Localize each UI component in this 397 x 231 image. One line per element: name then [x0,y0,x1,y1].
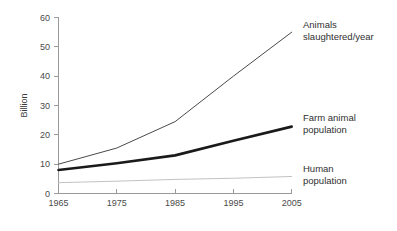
x-axis-ticks [59,189,292,194]
annotation-farm-animal-line2: population [303,124,347,135]
series-annotations: Animals slaughtered/year Farm animal pop… [303,19,374,186]
y-tick-label-60: 60 [40,13,50,23]
annotation-human-population-line2: population [303,175,347,186]
series-line-farm-animal-population [59,127,292,170]
y-tick-label-50: 50 [40,42,50,52]
y-tick-label-30: 30 [40,101,50,111]
x-tick-label-2005: 2005 [282,198,302,208]
series-line-human-population [59,176,292,182]
x-tick-label-1985: 1985 [165,198,185,208]
line-chart: 60 50 40 30 20 10 0 1965 1975 1985 1995 … [0,0,397,231]
annotation-human-population-line1: Human [303,163,334,174]
x-tick-label-1995: 1995 [223,198,243,208]
annotation-animals-slaughtered-line1: Animals [303,19,337,30]
x-axis-tick-labels: 1965 1975 1985 1995 2005 [48,198,301,208]
chart-container: 60 50 40 30 20 10 0 1965 1975 1985 1995 … [0,0,397,231]
annotation-animals-slaughtered-line2: slaughtered/year [303,31,374,42]
y-axis-ticks [54,18,59,194]
y-axis-title: Billion [19,93,29,117]
x-tick-label-1975: 1975 [107,198,127,208]
y-tick-label-0: 0 [45,189,50,199]
annotation-farm-animal-line1: Farm animal [303,112,356,123]
y-tick-label-10: 10 [40,159,50,169]
x-tick-label-1965: 1965 [48,198,68,208]
y-tick-label-40: 40 [40,71,50,81]
series-lines [59,32,292,182]
series-line-animals-slaughtered [59,32,292,164]
y-tick-label-20: 20 [40,130,50,140]
y-axis-tick-labels: 60 50 40 30 20 10 0 [40,13,50,199]
